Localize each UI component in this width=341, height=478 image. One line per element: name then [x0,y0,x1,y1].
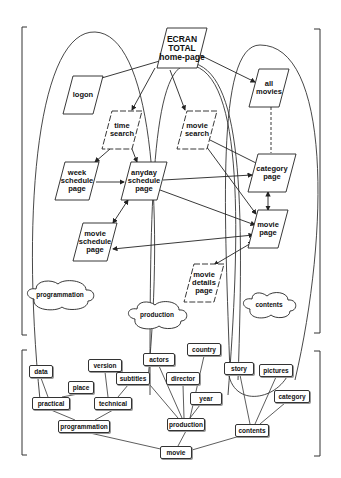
tree-node-pictures: pictures [259,364,293,377]
tree-node-director: director [166,372,200,385]
tree-node-year: year [190,392,222,405]
page-label-movie-search: movie search [185,122,209,138]
page-label-movie-page: movie page [257,221,279,237]
page-label-home: ECRAN TOTAL home-page [159,35,204,62]
tree-node-category: category [274,390,310,403]
page-label-movie-details: movie details page [192,271,216,295]
cloud-label-contents: contents [255,301,282,309]
tree-node-place: place [68,381,94,394]
page-label-category-page: category page [256,165,287,181]
tree-node-movie-tag: movie [160,446,192,459]
page-label-logon: logon [73,91,93,99]
page-label-week-schedule: week schedule page [61,169,94,193]
tree-node-practical: practical [32,397,70,410]
page-label-movie-schedule: movie schedule page [79,230,112,254]
tree-node-contents-tag: contents [235,424,269,437]
page-label-anyday-schedule: anyday schedule page [128,169,161,193]
page-label-all-movies: all movies [256,80,282,96]
website-structure-diagram: ECRAN TOTAL home-pagelogontime searchmov… [0,0,341,478]
tree-node-programmation-tag: programmation [58,420,110,433]
cloud-label-production: production [140,311,174,319]
tree-node-data: data [29,365,53,378]
cloud-label-programmation: programmation [36,291,84,299]
tree-node-story: story [224,362,254,375]
tree-node-production-tag: production [167,418,205,431]
tree-node-technical: technical [94,397,132,410]
page-label-time-search: time search [110,122,134,138]
tree-node-country: country [187,343,221,356]
tree-node-subtitles: subtitles [116,372,150,385]
tree-node-version: version [88,359,122,372]
navigation-links [88,55,271,265]
tree-node-actors: actors [143,353,175,366]
